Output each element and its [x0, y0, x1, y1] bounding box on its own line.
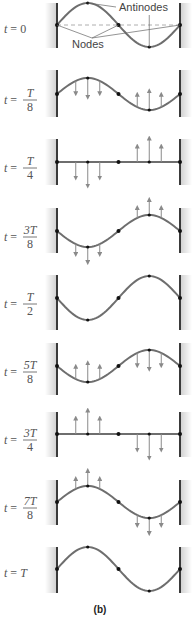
- node-dot: [117, 296, 121, 300]
- time-label: t = T: [4, 566, 28, 580]
- node-dot: [117, 160, 121, 164]
- time-label: t =: [4, 501, 17, 515]
- node-dot: [117, 229, 121, 233]
- fraction-numerator: T: [27, 154, 35, 168]
- node-dot: [178, 296, 182, 300]
- node-dot: [55, 567, 59, 571]
- node-dot: [55, 364, 59, 368]
- node-dot: [55, 432, 59, 436]
- panel-5: t = 5T8: [4, 343, 192, 395]
- nodes-leader: [57, 25, 92, 38]
- node-dot: [117, 567, 121, 571]
- wall-shade-left: [45, 343, 57, 395]
- panels: t = 0t = T8t = T4t = 3T8t = T2t = 5T8t =…: [4, 1, 192, 593]
- panel-7: t = 7T8: [4, 470, 192, 533]
- node-dot: [178, 92, 182, 96]
- antinode-dot: [86, 245, 89, 248]
- time-label: t = 0: [4, 22, 26, 36]
- fraction-denominator: 2: [27, 304, 33, 318]
- wall-shade-right: [180, 343, 192, 395]
- node-dot: [178, 500, 182, 504]
- node-dot: [55, 296, 59, 300]
- node-dot: [55, 229, 59, 233]
- antinode-dot: [148, 432, 151, 435]
- node-dot: [55, 500, 59, 504]
- antinode-dot: [86, 160, 89, 163]
- time-label: t =: [4, 297, 17, 311]
- fraction-numerator: 3T: [23, 426, 38, 440]
- fraction-denominator: 4: [27, 168, 33, 182]
- fraction-numerator: 5T: [24, 358, 38, 372]
- antinode-dot: [148, 213, 151, 216]
- time-label: t =: [4, 93, 17, 107]
- node-dot: [55, 92, 59, 96]
- standing-wave-diagram: t = 0t = T8t = T4t = 3T8t = T2t = 5T8t =…: [0, 0, 195, 617]
- antinodes-label: Antinodes: [119, 1, 168, 13]
- panel-6: t = 3T4: [4, 410, 192, 458]
- antinode-dot: [148, 160, 151, 163]
- wall-shade-right: [180, 547, 192, 593]
- node-dot: [178, 567, 182, 571]
- wall-shade-left: [45, 275, 57, 330]
- fraction-denominator: 8: [27, 372, 33, 386]
- antinode-dot: [86, 484, 89, 487]
- time-label: t =: [4, 230, 17, 244]
- node-dot: [178, 229, 182, 233]
- node-dot: [178, 160, 182, 164]
- antinode-dot: [86, 432, 89, 435]
- antinode-dot: [148, 589, 151, 592]
- figure-caption: (b): [94, 604, 107, 615]
- node-dot: [178, 364, 182, 368]
- antinode-dot: [148, 108, 151, 111]
- panel-1: t = T8: [4, 70, 192, 117]
- node-dot: [178, 432, 182, 436]
- antinode-dot: [86, 318, 89, 321]
- fraction-denominator: 8: [27, 508, 33, 522]
- node-dot: [117, 92, 121, 96]
- time-label: t =: [4, 433, 17, 447]
- panel-8: t = T: [4, 545, 192, 593]
- node-dot: [117, 432, 121, 436]
- time-label: t =: [4, 365, 17, 379]
- fraction-denominator: 4: [27, 440, 33, 454]
- panel-2: t = T4: [4, 138, 192, 186]
- panel-3: t = 3T8: [4, 199, 192, 262]
- fraction-numerator: T: [27, 86, 35, 100]
- fraction-numerator: T: [27, 290, 35, 304]
- wall-shade-left: [45, 547, 57, 593]
- fraction-denominator: 8: [27, 237, 33, 251]
- wall-shade-right: [180, 275, 192, 330]
- time-label: t =: [4, 161, 17, 175]
- node-dot: [55, 160, 59, 164]
- antinode-dot: [148, 516, 151, 519]
- antinode-dot: [86, 545, 89, 548]
- panel-4: t = T2: [4, 274, 192, 330]
- fraction-numerator: 3T: [23, 223, 38, 237]
- fraction-numerator: 7T: [24, 494, 38, 508]
- fraction-denominator: 8: [27, 100, 33, 114]
- antinode-dot: [148, 274, 151, 277]
- node-dot: [117, 364, 121, 368]
- antinode-dot: [148, 348, 151, 351]
- antinodes-leader-1: [88, 3, 116, 7]
- antinode-dot: [86, 76, 89, 79]
- node-dot: [117, 500, 121, 504]
- nodes-label: Nodes: [72, 38, 104, 50]
- antinode-dot: [86, 380, 89, 383]
